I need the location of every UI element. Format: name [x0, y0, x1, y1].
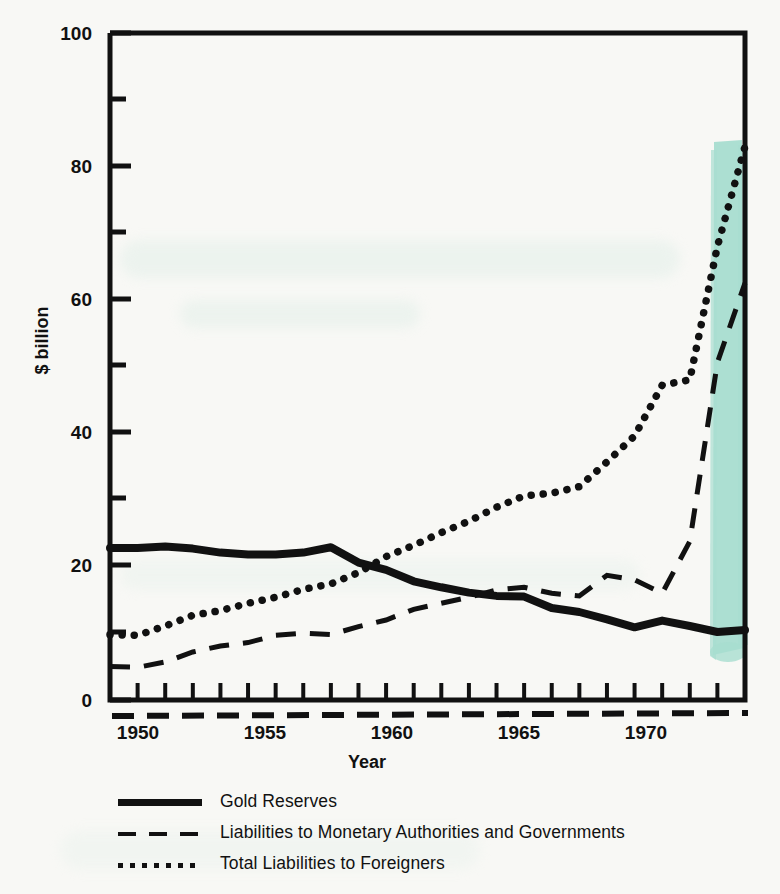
legend-label-total-liabilities-foreigners: Total Liabilities to Foreigners	[220, 853, 445, 874]
chart-figure: 100 80 60 40 20 0 1950 1955 1960 1965 19…	[0, 0, 780, 894]
x-tick-label-1950: 1950	[98, 722, 178, 744]
y-axis-title: $ billion	[32, 281, 53, 401]
legend-swatch-solid-line-icon	[118, 795, 204, 809]
series-liabilities-to-monetary-authorities	[110, 283, 745, 667]
legend-label-gold-reserves: Gold Reserves	[220, 791, 337, 812]
x-tick-label-1955: 1955	[225, 722, 305, 744]
legend-label-liabilities-monetary-authorities: Liabilities to Monetary Authorities and …	[220, 822, 625, 843]
y-tick-label-40: 40	[30, 422, 92, 444]
y-tick-label-20: 20	[30, 555, 92, 577]
x-tick-label-1965: 1965	[479, 722, 559, 744]
figure-bottom-rule	[112, 713, 748, 716]
chart-legend: Gold Reserves Liabilities to Monetary Au…	[118, 786, 758, 879]
y-axis-ticks	[110, 33, 131, 700]
legend-swatch-dotted-line-icon	[118, 857, 204, 871]
x-tick-label-1970: 1970	[606, 722, 686, 744]
x-tick-label-1960: 1960	[352, 722, 432, 744]
y-tick-label-0: 0	[30, 690, 92, 712]
y-tick-label-100: 100	[30, 23, 92, 45]
x-axis-ticks	[110, 683, 745, 700]
y-tick-label-80: 80	[30, 156, 92, 178]
legend-item-total-liabilities-foreigners: Total Liabilities to Foreigners	[118, 848, 758, 879]
legend-item-liabilities-monetary-authorities: Liabilities to Monetary Authorities and …	[118, 817, 758, 848]
series-total-liabilities-to-foreigners	[110, 146, 745, 635]
legend-item-gold-reserves: Gold Reserves	[118, 786, 758, 817]
legend-swatch-dashed-line-icon	[118, 826, 204, 840]
plot-frame	[110, 33, 745, 700]
highlighter-mark	[710, 140, 748, 662]
x-axis-title: Year	[348, 752, 468, 773]
